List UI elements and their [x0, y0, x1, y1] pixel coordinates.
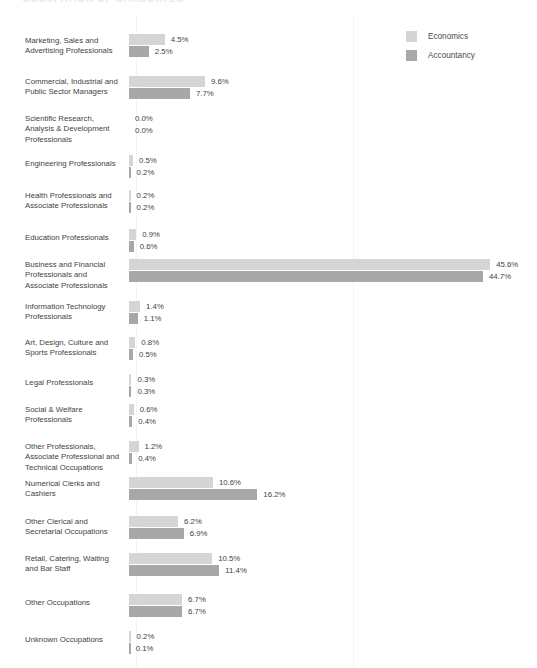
bar-accountancy[interactable]: [129, 46, 149, 57]
category-label: Unknown Occupations: [25, 635, 125, 645]
category-label: Other Professionals,Associate Profession…: [25, 442, 125, 473]
bar-value-label: 0.4%: [138, 454, 156, 463]
category-label: Legal Professionals: [25, 378, 125, 388]
bar-value-label: 0.4%: [138, 417, 156, 426]
category-label: Retail, Catering, Waitingand Bar Staff: [25, 554, 125, 575]
category-label: Social & WelfareProfessionals: [25, 405, 125, 426]
bar-economics[interactable]: [129, 404, 134, 415]
bar-value-label: 0.0%: [135, 114, 153, 123]
bar-economics[interactable]: [129, 337, 135, 348]
category-label: Marketing, Sales andAdvertising Professi…: [25, 36, 125, 57]
category-label: Business and FinancialProfessionals andA…: [25, 260, 125, 291]
bar-value-label: 16.2%: [263, 490, 285, 499]
bar-value-label: 45.6%: [496, 260, 518, 269]
bar-value-label: 10.5%: [218, 554, 240, 563]
bar-value-label: 0.6%: [140, 242, 158, 251]
bar-value-label: 0.0%: [135, 126, 153, 135]
bar-value-label: 6.7%: [188, 607, 206, 616]
bar-accountancy[interactable]: [129, 271, 483, 282]
bar-value-label: 10.6%: [219, 478, 241, 487]
bar-accountancy[interactable]: [129, 416, 132, 427]
bar-economics[interactable]: [129, 631, 131, 642]
bar-economics[interactable]: [129, 477, 213, 488]
bar-accountancy[interactable]: [129, 386, 131, 397]
bar-accountancy[interactable]: [129, 202, 131, 213]
category-label: Information TechnologyProfessionals: [25, 302, 125, 323]
bar-value-label: 6.9%: [190, 529, 208, 538]
bar-value-label: 0.8%: [141, 338, 159, 347]
bar-economics[interactable]: [129, 553, 212, 564]
category-label: Numerical Clerks andCashiers: [25, 479, 125, 500]
bar-economics[interactable]: [129, 594, 182, 605]
bar-accountancy[interactable]: [129, 606, 182, 617]
header-fragment: OCCUPATION OF GRADUATES: [0, 0, 537, 11]
bar-value-label: 0.6%: [140, 405, 158, 414]
bar-value-label: 0.2%: [137, 168, 155, 177]
bar-value-label: 11.4%: [225, 566, 247, 575]
category-label: Health Professionals andAssociate Profes…: [25, 191, 125, 212]
bar-value-label: 0.3%: [137, 375, 155, 384]
bar-economics[interactable]: [129, 155, 133, 166]
bar-economics[interactable]: [129, 441, 139, 452]
bar-value-label: 0.2%: [137, 191, 155, 200]
category-label: Other Clerical andSecretarial Occupation…: [25, 517, 125, 538]
bar-chart-plot: Marketing, Sales andAdvertising Professi…: [0, 14, 537, 668]
bar-value-label: 0.1%: [136, 644, 154, 653]
bar-economics[interactable]: [129, 259, 490, 270]
bar-value-label: 7.7%: [196, 89, 214, 98]
bar-accountancy[interactable]: [129, 489, 257, 500]
header-fragment-text: OCCUPATION OF GRADUATES: [22, 0, 184, 4]
bar-value-label: 44.7%: [489, 272, 511, 281]
bar-accountancy[interactable]: [129, 313, 138, 324]
bar-economics[interactable]: [129, 229, 136, 240]
category-label: Education Professionals: [25, 233, 125, 243]
bar-value-label: 0.5%: [139, 156, 157, 165]
bar-value-label: 0.5%: [139, 350, 157, 359]
bar-value-label: 1.1%: [144, 314, 162, 323]
category-label: Commercial, Industrial andPublic Sector …: [25, 77, 125, 98]
bar-economics[interactable]: [129, 76, 205, 87]
bar-accountancy[interactable]: [129, 643, 131, 654]
category-label: Art, Design, Culture andSports Professio…: [25, 338, 125, 359]
bar-economics[interactable]: [129, 516, 178, 527]
bar-value-label: 4.5%: [171, 35, 189, 44]
bar-value-label: 9.6%: [211, 77, 229, 86]
bar-accountancy[interactable]: [129, 349, 133, 360]
bar-value-label: 2.5%: [155, 47, 173, 56]
bar-value-label: 0.9%: [142, 230, 160, 239]
bar-economics[interactable]: [129, 190, 131, 201]
category-label: Engineering Professionals: [25, 159, 125, 169]
bar-value-label: 6.7%: [188, 595, 206, 604]
bar-economics[interactable]: [129, 301, 140, 312]
bar-economics[interactable]: [129, 374, 131, 385]
bar-accountancy[interactable]: [129, 565, 219, 576]
bar-value-label: 0.2%: [137, 632, 155, 641]
bar-accountancy[interactable]: [129, 88, 190, 99]
bar-accountancy[interactable]: [129, 167, 131, 178]
bar-accountancy[interactable]: [129, 528, 184, 539]
bar-value-label: 0.3%: [137, 387, 155, 396]
bar-value-label: 0.2%: [137, 203, 155, 212]
bar-value-label: 1.2%: [145, 442, 163, 451]
bar-accountancy[interactable]: [129, 453, 132, 464]
bar-value-label: 1.4%: [146, 302, 164, 311]
category-label: Other Occupations: [25, 598, 125, 608]
bar-economics[interactable]: [129, 34, 165, 45]
category-label: Scientific Research,Analysis & Developme…: [25, 114, 125, 145]
bar-accountancy[interactable]: [129, 241, 134, 252]
bar-value-label: 6.2%: [184, 517, 202, 526]
